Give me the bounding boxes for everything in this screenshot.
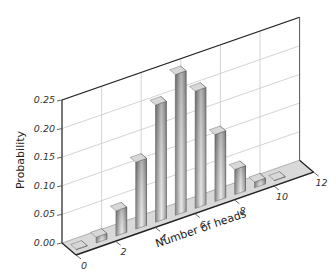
y-tick-mark <box>57 243 62 244</box>
bar-front-shade <box>215 131 226 202</box>
y-tick-label: 0.25 <box>34 94 55 105</box>
x-tick-mark <box>116 241 121 245</box>
bar-front-shade <box>136 158 147 229</box>
bar-front-shade <box>175 71 186 216</box>
probability-3d-bar-chart: 0.000.050.100.150.200.25 024681012 Proba… <box>0 0 336 273</box>
x-tick-label: 0 <box>81 260 87 271</box>
y-tick-label: 0.15 <box>34 151 55 162</box>
y-axis-title: Probability <box>14 130 27 189</box>
bar-front-shade <box>235 166 246 195</box>
y-tick-label: 0.05 <box>34 208 55 219</box>
bar-front-shade <box>195 87 206 208</box>
x-tick-label: 2 <box>121 246 127 257</box>
x-tick-mark <box>274 186 279 190</box>
y-tick-label: 0.00 <box>34 237 55 248</box>
y-axis-ticks: 0.000.050.100.150.200.25 <box>34 94 62 248</box>
y-tick-label: 0.20 <box>34 123 55 134</box>
x-tick-label: 10 <box>276 191 288 202</box>
x-tick-label: 12 <box>316 177 328 188</box>
x-tick-mark <box>155 227 160 231</box>
bar-front-shade <box>156 101 167 222</box>
x-tick-mark <box>76 255 81 259</box>
x-tick-mark <box>234 200 239 204</box>
x-tick-mark <box>314 172 319 176</box>
x-tick-mark <box>195 214 200 218</box>
y-tick-label: 0.10 <box>34 180 55 191</box>
bar-front-shade <box>116 207 127 236</box>
